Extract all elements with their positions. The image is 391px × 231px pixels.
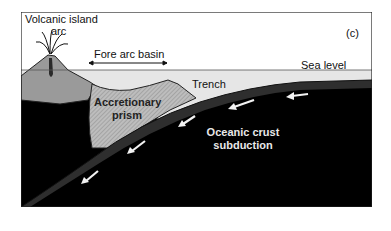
panel-label: (c) (346, 27, 359, 39)
label-accretionary-prism-2: prism (94, 109, 160, 121)
label-subduction: subduction (198, 139, 288, 152)
label-arc: arc (51, 25, 66, 37)
label-accretionary-prism-1: Accretionary (94, 96, 160, 108)
label-trench: Trench (192, 78, 226, 90)
label-volcanic-island: Volcanic island (25, 13, 98, 25)
label-fore-arc-basin: Fore arc basin (94, 48, 164, 60)
subduction-zone-diagram: Volcanic island arc Fore arc basin Trenc… (0, 0, 391, 231)
label-sea-level: Sea level (301, 59, 346, 71)
label-oceanic-crust: Oceanic crust (198, 126, 288, 139)
